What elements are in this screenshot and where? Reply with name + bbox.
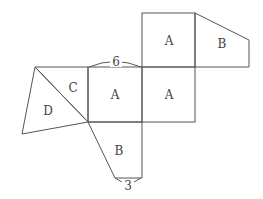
label-top-right-trapezoid: B xyxy=(218,37,227,51)
label-triangle-d: D xyxy=(43,104,53,118)
face-triangle-d xyxy=(22,67,88,134)
label-middle-left-square: A xyxy=(110,88,120,102)
label-triangle-c: C xyxy=(68,81,77,95)
dimension-label-3: 3 xyxy=(124,179,132,193)
solid-net-diagram: A B A A C D B 6 3 xyxy=(0,0,263,199)
dimension-label-6: 6 xyxy=(112,55,120,69)
label-top-square: A xyxy=(164,34,174,48)
label-bottom-trapezoid: B xyxy=(115,144,124,158)
label-middle-right-square: A xyxy=(164,88,174,102)
